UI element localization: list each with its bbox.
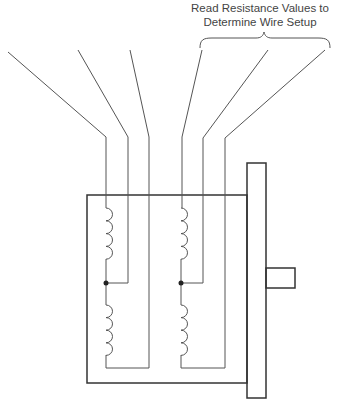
junction-dot-icon [179,281,184,286]
coil-icon [181,305,188,355]
coil-icon [181,208,188,259]
motor-shaft [266,268,295,288]
coil-icon [106,208,113,259]
junction-dot-icon [104,281,109,286]
lead-wire-1 [8,52,106,208]
lead-wire-2 [78,50,128,283]
lead-wire-6 [225,50,325,368]
lead-wire-4 [182,50,202,208]
motor-flange [247,163,266,398]
motor-wiring-diagram [0,0,340,404]
lead-wire-3 [130,50,149,368]
coil-return [106,355,149,368]
coil-icon [106,305,113,355]
curly-brace-icon [200,32,330,48]
coil-return [181,355,225,368]
